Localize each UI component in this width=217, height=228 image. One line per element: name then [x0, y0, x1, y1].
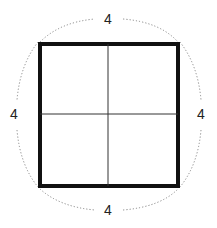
top-dotted-arc-right — [123, 19, 178, 42]
top-dotted-arc — [40, 19, 95, 42]
bottom-side-label: 4 — [104, 203, 112, 217]
right-dotted-arc-bottom — [180, 130, 201, 187]
bottom-dotted-arc-right — [123, 189, 178, 210]
left-dotted-arc-top — [17, 42, 38, 100]
right-dotted-arc-top — [180, 42, 201, 100]
right-side-label: 4 — [197, 107, 205, 121]
square-diagram — [0, 0, 217, 228]
top-side-label: 4 — [104, 12, 112, 26]
left-side-label: 4 — [10, 107, 18, 121]
bottom-dotted-arc-left — [40, 189, 95, 210]
left-dotted-arc-bottom — [17, 130, 38, 187]
square-outline — [40, 44, 178, 186]
